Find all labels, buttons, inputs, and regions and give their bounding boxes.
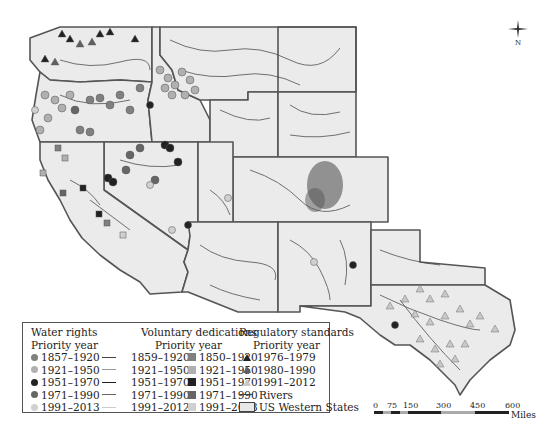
legend-item: 1980–1990 xyxy=(239,364,359,377)
state-new-mexico xyxy=(278,222,371,312)
legend-water-rights-title: Water rights xyxy=(31,326,119,339)
square-marker-icon xyxy=(188,378,196,386)
triangle-marker-icon xyxy=(243,379,251,386)
legend-item: 1976–1979 xyxy=(239,351,359,364)
line-marker-icon xyxy=(102,357,116,358)
square-marker-icon xyxy=(188,403,196,411)
circle-marker-icon xyxy=(31,366,38,373)
triangle-marker-icon xyxy=(243,354,251,361)
line-marker-icon xyxy=(102,382,116,383)
circle-marker-icon xyxy=(31,354,38,361)
legend-item: 1971–1990 xyxy=(31,389,119,402)
legend-rs-subtitle: Priority year xyxy=(239,339,359,352)
scale-tick-label: 450 xyxy=(470,401,485,410)
map-legend: Water rights Priority year 1857–1920 192… xyxy=(22,322,330,413)
scale-tick-label: 75 xyxy=(387,401,397,410)
square-marker-icon xyxy=(188,353,196,361)
legend-water-rights: Water rights Priority year 1857–1920 192… xyxy=(31,326,119,414)
state-arizona xyxy=(182,222,278,312)
north-label: N xyxy=(515,39,521,47)
state-washington xyxy=(30,27,152,82)
legend-item: 1991–2013 xyxy=(31,401,119,414)
legend-item: Rivers xyxy=(239,389,359,402)
river-line-icon xyxy=(239,394,253,395)
legend-item: 1971–1990 xyxy=(131,389,190,402)
line-marker-icon xyxy=(102,407,116,408)
legend-item: 1857–1920 xyxy=(31,351,119,364)
compass-star-icon xyxy=(506,18,530,40)
north-arrow: N xyxy=(506,18,530,48)
legend-item: US Western States xyxy=(239,401,359,414)
legend-item: 1859–1920 xyxy=(131,351,190,364)
legend-regulatory-standards: Regulatory standards Priority year 1976–… xyxy=(239,326,359,414)
scale-tick-label: 300 xyxy=(436,401,451,410)
legend-item: 1951–1970 xyxy=(131,376,190,389)
state-south-dakota xyxy=(278,92,356,157)
circle-marker-icon xyxy=(31,391,38,398)
square-marker-icon xyxy=(188,366,196,374)
scale-unit: Miles xyxy=(511,410,536,420)
legend-rs-title: Regulatory standards xyxy=(239,326,359,339)
legend-water-rights-subtitle: Priority year xyxy=(31,339,119,352)
legend-item: 1921–1950 xyxy=(131,364,190,377)
legend-water-rights-lines: 1859–1920 1921–1950 1951–1970 1971–1990 … xyxy=(131,351,190,414)
state-polygon-icon xyxy=(239,402,255,412)
scale-bar: 0 75 150 300 450 600 Miles xyxy=(373,401,553,421)
scale-tick-label: 150 xyxy=(403,401,418,410)
legend-item: 1951–1970 xyxy=(31,376,119,389)
square-marker-icon xyxy=(188,391,196,399)
legend-item: 1991–2012 xyxy=(239,376,359,389)
line-marker-icon xyxy=(102,394,116,395)
scale-tick-label: 600 xyxy=(505,401,520,410)
circle-marker-icon xyxy=(31,404,38,411)
scale-bar-graphic xyxy=(374,411,510,415)
legend-item: 1921–1950 xyxy=(31,364,119,377)
state-montana xyxy=(160,27,356,100)
triangle-marker-icon xyxy=(243,366,251,373)
legend-item: 1991–2012 xyxy=(131,401,190,414)
state-oklahoma xyxy=(371,230,485,285)
line-marker-icon xyxy=(102,369,116,370)
circle-marker-icon xyxy=(31,379,38,386)
scale-tick-label: 0 xyxy=(373,401,378,410)
